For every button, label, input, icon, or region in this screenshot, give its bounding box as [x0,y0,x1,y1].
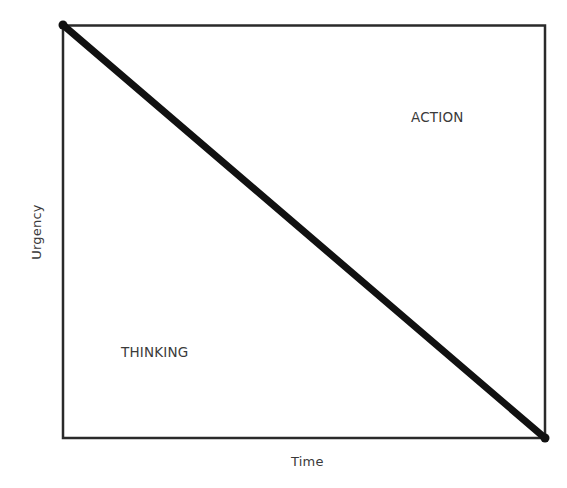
region-label-thinking: THINKING [121,344,188,360]
x-axis-label: Time [291,454,324,469]
urgency-time-diagram: ACTION THINKING Time Urgency [0,0,567,488]
end-point-dot [541,434,550,443]
start-point-dot [59,21,68,30]
diagram-canvas [0,0,567,488]
diagonal-boundary-line [63,25,545,438]
y-axis-label: Urgency [29,204,44,259]
region-label-action: ACTION [411,109,464,125]
